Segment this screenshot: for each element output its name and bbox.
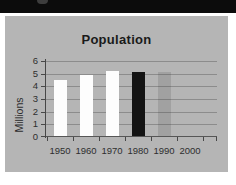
bar-1970 (106, 71, 119, 137)
x-tick (73, 137, 74, 141)
x-tick (47, 137, 48, 141)
y-tick (41, 112, 46, 113)
y-tick (41, 124, 46, 125)
bar-1960 (80, 75, 93, 137)
chart-title: Population (5, 32, 228, 47)
y-tick (41, 86, 46, 87)
x-tick (216, 137, 217, 141)
y-tick-label: 5 (16, 69, 38, 79)
x-tick (125, 137, 126, 141)
x-tick (151, 137, 152, 141)
x-tick (99, 137, 100, 141)
cropped-text-artifact (37, 0, 48, 4)
y-tick-label: 0 (16, 132, 38, 142)
bar-1980 (132, 72, 145, 137)
y-tick-label: 1 (16, 119, 38, 129)
population-chart-panel: Population Millions 01234561950196019701… (5, 16, 228, 172)
top-black-bar (0, 0, 236, 13)
y-tick-label: 3 (16, 94, 38, 104)
y-tick (41, 61, 46, 62)
x-tick-label-2000: 2000 (173, 146, 207, 156)
y-tick-label: 2 (16, 107, 38, 117)
y-tick (41, 136, 46, 137)
x-tick (203, 137, 204, 141)
x-axis-line (45, 136, 217, 137)
bar-1950 (54, 80, 67, 137)
y-tick (41, 74, 46, 75)
bar-1990 (158, 72, 171, 137)
plot-area: 0123456195019601970198019902000 (45, 61, 217, 137)
y-tick-label: 6 (16, 56, 38, 66)
y-tick (41, 99, 46, 100)
x-tick (177, 137, 178, 141)
y-tick-label: 4 (16, 81, 38, 91)
gridline (45, 61, 217, 62)
